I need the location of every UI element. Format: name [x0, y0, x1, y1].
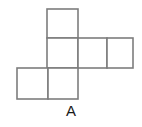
square-middle-right: [107, 38, 133, 68]
cube-net-svg: [0, 0, 142, 104]
screenshot-root: A: [0, 0, 142, 127]
figure-label: A: [0, 102, 142, 120]
square-bottom-left: [17, 68, 48, 99]
square-middle-left: [47, 38, 78, 68]
net-squares: [17, 9, 133, 99]
cube-net-figure: [0, 0, 142, 104]
square-middle-center: [78, 38, 107, 68]
square-top: [47, 9, 78, 38]
square-bottom-center: [48, 68, 78, 99]
